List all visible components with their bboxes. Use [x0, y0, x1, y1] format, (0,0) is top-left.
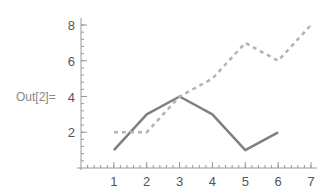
line-chart: 24681234567 — [0, 0, 334, 196]
series-solid-line — [114, 97, 278, 151]
x-tick-label: 5 — [242, 174, 249, 189]
x-tick-label: 7 — [307, 174, 314, 189]
y-tick-label: 2 — [68, 125, 75, 140]
y-tick-label: 4 — [68, 90, 75, 105]
y-tick-label: 6 — [68, 54, 75, 69]
x-tick-label: 3 — [176, 174, 183, 189]
x-tick-label: 6 — [275, 174, 282, 189]
x-tick-label: 1 — [110, 174, 117, 189]
chart-series — [114, 25, 311, 150]
x-tick-label: 2 — [143, 174, 150, 189]
x-tick-label: 4 — [209, 174, 216, 189]
y-tick-label: 8 — [68, 18, 75, 33]
